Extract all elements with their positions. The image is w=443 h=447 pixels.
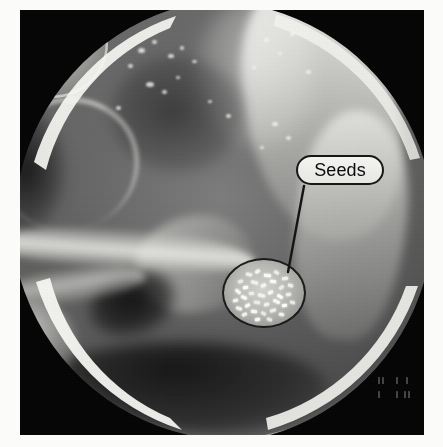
brachytherapy-seed <box>236 306 243 311</box>
brachytherapy-seed <box>258 293 266 298</box>
brachytherapy-seed <box>288 283 294 287</box>
brachytherapy-seed <box>235 288 242 294</box>
brachytherapy-seed <box>233 298 239 302</box>
overlay-glyph <box>408 391 410 398</box>
overlay-glyph <box>406 377 408 384</box>
overlay-glyph <box>396 391 398 398</box>
radiograph-figure: Seeds <box>0 0 443 447</box>
brachytherapy-seed <box>273 299 281 305</box>
brachytherapy-seed <box>277 294 284 300</box>
brachytherapy-seed <box>245 303 251 308</box>
seed-magnifier[interactable] <box>222 258 306 328</box>
brachytherapy-seed <box>279 313 285 317</box>
overlay-glyph <box>378 377 380 384</box>
brachytherapy-seed <box>255 269 261 274</box>
brachytherapy-seed <box>249 292 254 295</box>
brachytherapy-seed <box>274 270 280 275</box>
acquisition-overlay-marks <box>376 375 418 405</box>
overlay-glyph <box>396 377 398 384</box>
brachytherapy-seed <box>267 317 273 322</box>
brachytherapy-seed <box>282 304 287 308</box>
brachytherapy-seed <box>251 310 257 314</box>
seeds-callout-pill[interactable]: Seeds <box>296 155 384 185</box>
brachytherapy-seed <box>286 293 292 297</box>
brachytherapy-seed <box>290 300 296 304</box>
brachytherapy-seed <box>282 277 288 281</box>
collimator-crescent-layer <box>20 10 424 435</box>
brachytherapy-seed <box>242 312 248 317</box>
brachytherapy-seed <box>261 283 267 288</box>
overlay-glyph <box>378 391 380 398</box>
brachytherapy-seed <box>279 285 285 291</box>
brachytherapy-seed <box>261 311 267 316</box>
brachytherapy-seed <box>243 286 248 290</box>
brachytherapy-seed <box>241 295 248 300</box>
brachytherapy-seed <box>264 274 271 278</box>
overlay-glyph <box>404 391 406 398</box>
seeds-callout-label: Seeds <box>314 161 366 179</box>
brachytherapy-seed <box>238 279 244 283</box>
crescent-top-right <box>274 14 420 160</box>
brachytherapy-seed <box>268 290 274 295</box>
brachytherapy-seed <box>264 302 270 306</box>
overlay-glyph <box>382 377 384 384</box>
seed-layer <box>224 260 304 326</box>
crescent-bottom-left <box>36 278 182 430</box>
brachytherapy-seed <box>270 308 277 313</box>
brachytherapy-seed <box>254 301 260 305</box>
xray-plate: Seeds <box>20 10 424 435</box>
crescent-top-left <box>34 16 176 170</box>
brachytherapy-seed <box>246 272 252 276</box>
brachytherapy-seed <box>251 280 259 285</box>
brachytherapy-seed <box>270 280 276 284</box>
brachytherapy-seed <box>255 318 260 322</box>
